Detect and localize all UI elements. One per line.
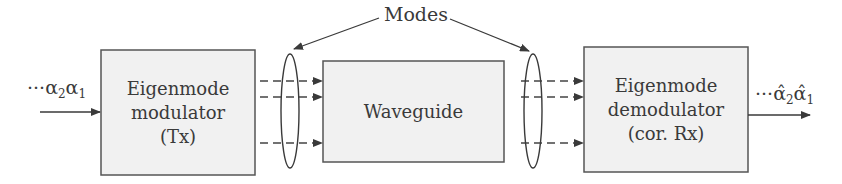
- modes-arrow-right: [450, 19, 529, 51]
- alpha-1-subscript: 1: [78, 87, 86, 101]
- input-symbol-sequence: ···α2α1: [27, 76, 86, 101]
- rx-line-3: (cor. Rx): [628, 122, 705, 146]
- alpha-2-subscript: 2: [58, 87, 66, 101]
- alpha-hat-1-subscript: 1: [806, 93, 814, 107]
- modes-label: Modes: [382, 2, 450, 26]
- rx-block-label: Eigenmode demodulator (cor. Rx): [584, 47, 748, 172]
- alpha-hat-1: α̂: [794, 82, 807, 104]
- mode-lines-tx-to-waveguide: [260, 81, 322, 143]
- tx-line-3: (Tx): [160, 125, 196, 149]
- alpha-2: α: [45, 76, 58, 98]
- waveguide-block-label: Waveguide: [323, 61, 504, 162]
- alpha-hat-2-subscript: 2: [786, 93, 794, 107]
- mode-lines-waveguide-to-rx: [521, 81, 583, 143]
- ellipsis: ···: [755, 82, 773, 104]
- tx-line-1: Eigenmode: [127, 77, 230, 101]
- alpha-1: α: [66, 76, 79, 98]
- waveguide-line-1: Waveguide: [364, 100, 464, 124]
- mode-ellipse-left: [281, 54, 299, 168]
- tx-block-label: Eigenmode modulator (Tx): [101, 50, 255, 175]
- output-symbol-sequence: ···α̂2α̂1: [755, 82, 814, 107]
- rx-line-2: demodulator: [608, 98, 724, 122]
- ellipsis: ···: [27, 76, 45, 98]
- mode-ellipse-right: [524, 54, 542, 168]
- modes-arrow-left: [294, 18, 379, 49]
- tx-line-2: modulator: [131, 101, 225, 125]
- rx-line-1: Eigenmode: [615, 74, 718, 98]
- alpha-hat-2: α̂: [773, 82, 786, 104]
